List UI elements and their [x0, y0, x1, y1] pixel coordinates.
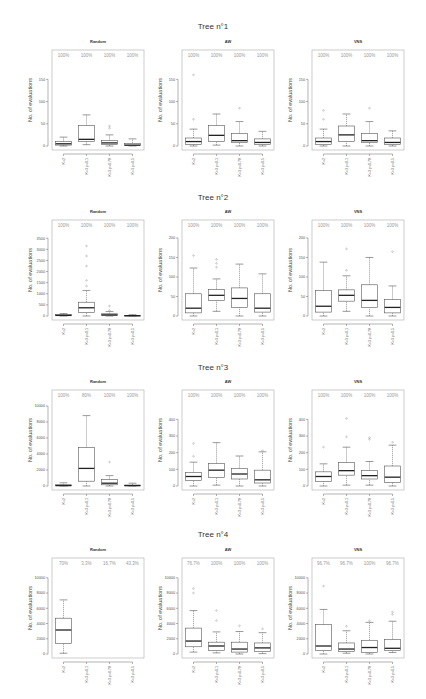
- panel-subtitle: Random: [90, 547, 106, 552]
- boxplot-box: [255, 628, 271, 654]
- x-tick-label: K=3 p=0.1: [215, 498, 219, 515]
- x-tick-label: K=3 p=0.5: [391, 158, 395, 175]
- y-tick-label: 3500: [37, 237, 45, 241]
- iqr-box: [255, 470, 271, 483]
- y-tick-label: 150: [39, 78, 45, 82]
- outlier-point: [346, 248, 348, 250]
- plot-frame: [52, 390, 144, 490]
- success-rate-label: 100%: [387, 53, 399, 58]
- success-rate-label: 100%: [58, 53, 70, 58]
- boxplot-box: [102, 461, 118, 486]
- x-tick-label: K=3 p=0.5: [131, 158, 135, 175]
- outlier-point: [86, 245, 88, 247]
- y-axis-label: No. of evaluations: [27, 248, 33, 292]
- iqr-box: [316, 625, 332, 651]
- success-rate-label: 100%: [127, 393, 139, 398]
- outlier-point: [239, 625, 241, 627]
- outlier-point: [392, 251, 394, 253]
- panel-subtitle: AW: [225, 39, 232, 44]
- tree-2-aw-panel: AW050100150200No. of evaluationsK=2K=3 p…: [152, 206, 280, 356]
- y-tick-label: 50: [41, 122, 45, 126]
- boxplot-box: [125, 483, 141, 486]
- outlier-point: [369, 437, 371, 439]
- y-tick-label: 50: [301, 122, 305, 126]
- outlier-point: [323, 446, 325, 448]
- y-tick-label: 2000: [37, 468, 45, 472]
- y-tick-label: 8000: [297, 591, 305, 595]
- boxplot-box: [232, 456, 248, 486]
- boxplot-box: [385, 131, 401, 146]
- iqr-box: [102, 480, 118, 485]
- success-rate-label: 96.7%: [340, 561, 353, 566]
- x-tick-label: K=3 p=0.5: [261, 328, 265, 345]
- success-rate-label: 100%: [364, 223, 376, 228]
- x-tick-label: K=3 p=0.1: [215, 158, 219, 175]
- y-axis-label: No. of evaluations: [287, 78, 293, 122]
- success-rate-label: 100%: [257, 393, 269, 398]
- boxplot-box: [209, 114, 225, 145]
- outlier-point: [346, 270, 348, 272]
- outlier-point: [86, 265, 88, 267]
- boxplot-box: [255, 450, 271, 486]
- x-tick-label: K=3 p=0.1: [345, 158, 349, 175]
- x-tick-label: K=2: [192, 158, 196, 165]
- tree-2-title: Tree n°2: [0, 193, 426, 202]
- tree-2-random-panel: Random0500100015002000250030003500No. of…: [22, 206, 150, 356]
- success-rate-label: 100%: [364, 393, 376, 398]
- boxplot-box: [316, 110, 332, 146]
- iqr-box: [316, 291, 332, 312]
- tree-4-title: Tree n°4: [0, 530, 426, 539]
- iqr-box: [339, 643, 355, 651]
- boxplot-box: [339, 114, 355, 146]
- outlier-point: [109, 310, 111, 312]
- boxplot-box: [339, 625, 355, 653]
- boxplot-box: [209, 610, 225, 653]
- x-tick-label: K=3 p=0.5: [261, 498, 265, 515]
- x-tick-label: K=3 p=0.5: [261, 666, 265, 683]
- outlier-point: [193, 456, 195, 458]
- panel-subtitle: Random: [90, 379, 106, 384]
- outlier-point: [193, 119, 195, 121]
- y-tick-label: 150: [299, 78, 305, 82]
- y-tick-label: 4000: [297, 622, 305, 626]
- iqr-box: [385, 466, 401, 482]
- success-rate-label: 96.7%: [386, 561, 399, 566]
- iqr-box: [362, 285, 378, 308]
- x-tick-label: K=3 p=0.78: [368, 666, 372, 685]
- outlier-point: [216, 263, 218, 265]
- x-tick-label: K=3 p=0.1: [85, 158, 89, 175]
- success-rate-label: 16.7%: [103, 561, 116, 566]
- y-tick-label: 0: [173, 314, 175, 318]
- x-tick-label: K=3 p=0.5: [131, 498, 135, 515]
- panel-subtitle: AW: [225, 209, 232, 214]
- y-tick-label: 6000: [167, 607, 175, 611]
- outlier-point: [392, 611, 394, 613]
- y-tick-label: 200: [299, 451, 305, 455]
- y-tick-label: 2000: [297, 637, 305, 641]
- success-rate-label: 100%: [211, 223, 223, 228]
- success-rate-label: 100%: [188, 223, 200, 228]
- y-tick-label: 400: [299, 418, 305, 422]
- y-tick-label: 0: [303, 314, 305, 318]
- y-tick-label: 6000: [37, 607, 45, 611]
- y-tick-label: 8000: [167, 591, 175, 595]
- y-tick-label: 8000: [37, 591, 45, 595]
- iqr-box: [186, 294, 202, 313]
- y-tick-label: 6000: [297, 607, 305, 611]
- success-rate-label: 100%: [364, 561, 376, 566]
- success-rate-label: 96.7%: [317, 561, 330, 566]
- y-tick-label: 0: [43, 484, 45, 488]
- boxplot-box: [362, 257, 378, 316]
- y-axis-label: No. of evaluations: [287, 418, 293, 462]
- y-tick-label: 300: [169, 434, 175, 438]
- outlier-point: [239, 107, 241, 109]
- iqr-box: [186, 628, 202, 647]
- success-rate-label: 100%: [341, 223, 353, 228]
- y-axis-label: No. of evaluations: [287, 586, 293, 630]
- boxplot-box: [362, 107, 378, 146]
- outlier-point: [109, 461, 111, 463]
- y-tick-label: 2000: [37, 637, 45, 641]
- success-rate-label: 100%: [104, 53, 116, 58]
- y-tick-label: 3000: [37, 248, 45, 252]
- y-tick-label: 1000: [37, 292, 45, 296]
